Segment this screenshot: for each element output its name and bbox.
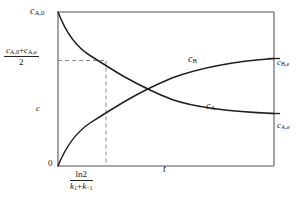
c-Be-subscript: B,e: [281, 61, 289, 67]
x-axis-title: t: [163, 164, 166, 174]
tick-numerator: ln2: [70, 170, 93, 181]
tick-denominator: k1+k−1: [70, 181, 93, 191]
c-Ae-subscript: A,e: [281, 124, 290, 130]
x-axis-tick-label-half-life: ln2 k1+k−1: [70, 170, 93, 191]
c-A-subscript: A: [210, 104, 215, 111]
curve-label-c-B: cB: [188, 54, 197, 65]
tick-k2-subscript: −1: [86, 185, 93, 191]
kinetics-figure: cA,0 cA,0+cA,e 2 c 0 ln2 k1+k−1 t cB cA …: [0, 0, 304, 212]
equilibrium-label-c-Ae: cA,e: [277, 121, 290, 130]
half-denominator: 2: [4, 57, 39, 67]
half-num-b-subscript: A,e: [28, 49, 37, 55]
curve-c-A: [58, 12, 274, 114]
plot-svg: [0, 0, 304, 212]
half-numerator: cA,0+cA,e: [4, 46, 39, 57]
y-axis-label-half-value: cA,0+cA,e 2: [4, 46, 39, 67]
equilibrium-label-c-Be: cB,e: [277, 58, 289, 67]
half-num-a-subscript: A,0: [10, 49, 19, 55]
c-B-subscript: B: [192, 57, 197, 64]
origin-label: 0: [48, 159, 53, 168]
y-axis-label-c-A0: cA,0: [30, 6, 44, 17]
plot-frame: [58, 12, 274, 166]
curve-label-c-A: cA: [206, 101, 215, 112]
y-axis-title: c: [36, 104, 40, 113]
c-A0-subscript: A,0: [34, 9, 44, 16]
